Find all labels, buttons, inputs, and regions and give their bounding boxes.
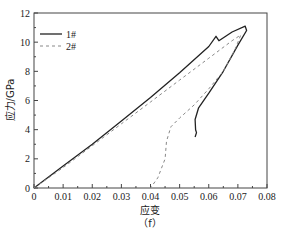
y-tick-label: 0 bbox=[25, 183, 30, 194]
y-axis-ticks: 024681012 bbox=[20, 8, 38, 194]
y-tick-label: 4 bbox=[25, 124, 30, 135]
x-axis-title: 应变 bbox=[140, 204, 160, 216]
x-tick-label: 0.07 bbox=[229, 191, 247, 202]
legend-label-1: 1# bbox=[66, 29, 76, 40]
y-tick-label: 10 bbox=[20, 37, 30, 48]
x-tick-label: 0.03 bbox=[113, 191, 131, 202]
x-tick-label: 0.01 bbox=[54, 191, 72, 202]
x-tick-label: 0.06 bbox=[200, 191, 218, 202]
legend-label-2: 2# bbox=[66, 41, 76, 52]
stress-strain-chart: 00.010.020.030.040.050.060.070.08 024681… bbox=[0, 0, 286, 233]
x-tick-label: 0.08 bbox=[258, 191, 276, 202]
x-tick-label: 0 bbox=[32, 191, 37, 202]
x-axis-ticks: 00.010.020.030.040.050.060.070.08 bbox=[32, 184, 276, 202]
y-tick-label: 6 bbox=[25, 95, 30, 106]
x-tick-label: 0.02 bbox=[84, 191, 102, 202]
x-tick-label: 0.04 bbox=[142, 191, 160, 202]
y-axis-title: 应力/GPa bbox=[4, 79, 16, 122]
x-tick-label: 0.05 bbox=[171, 191, 189, 202]
y-tick-label: 12 bbox=[20, 8, 30, 19]
legend: 1# 2# bbox=[40, 29, 76, 52]
figure-caption: （f） bbox=[138, 218, 162, 229]
y-tick-label: 8 bbox=[25, 66, 30, 77]
y-tick-label: 2 bbox=[25, 153, 30, 164]
